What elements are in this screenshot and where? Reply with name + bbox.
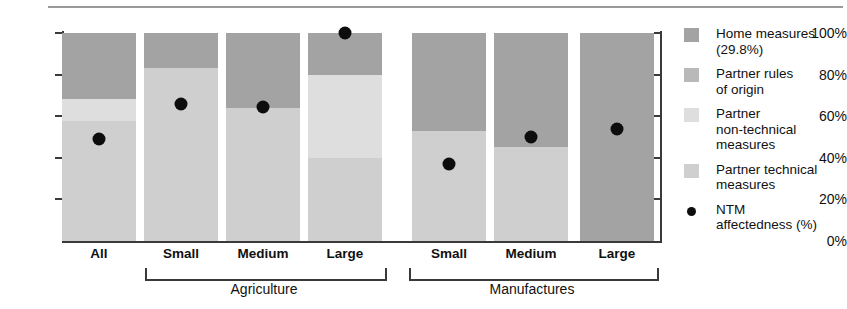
ntm-affectedness-dot [175, 97, 188, 110]
legend-item-4: NTM affectedness (%) [684, 202, 847, 233]
x-category-label-ag-small: Small [144, 246, 218, 261]
bar-segment [494, 147, 568, 241]
bar-segment [308, 75, 382, 158]
legend-item-0: Home measures (29.8%) [684, 26, 847, 57]
x-axis-line [62, 241, 662, 243]
ntm-affectedness-dot [611, 122, 624, 135]
ntm-affectedness-dot [443, 158, 456, 171]
legend-swatch-icon [684, 108, 699, 122]
bar-segment [226, 33, 300, 108]
legend-swatch-icon [684, 28, 699, 42]
bar-segment [62, 99, 136, 122]
bar-6 [580, 33, 654, 241]
plot-area [62, 33, 660, 241]
x-category-label-ag-medium: Medium [226, 246, 300, 261]
bar-segment [144, 33, 218, 68]
bar-segment [226, 108, 300, 241]
top-divider [48, 6, 843, 8]
group-bracket-agriculture [145, 268, 387, 281]
legend-item-2: Partner non-technical measures [684, 106, 847, 153]
y-tick-mark-60 [55, 115, 62, 117]
legend-label: Home measures (29.8%) [716, 26, 847, 57]
y-tick-mark-80 [55, 74, 62, 76]
bar-segment [412, 33, 486, 131]
legend-circle-marker-icon [687, 207, 696, 216]
x-category-label-ag-large: Large [308, 246, 382, 261]
legend-item-3: Partner technical measures [684, 162, 847, 193]
bar-segment [412, 131, 486, 241]
x-category-label-mf-medium: Medium [494, 246, 568, 261]
ntm-affectedness-dot [93, 133, 106, 146]
y-tick-mark-40 [55, 157, 62, 159]
legend-label: Partner non-technical measures [716, 106, 847, 153]
x-category-label-all: All [62, 246, 136, 261]
legend: Home measures (29.8%)Partner rules of or… [684, 26, 847, 242]
legend-swatch-icon [684, 68, 699, 82]
x-category-label-mf-small: Small [412, 246, 486, 261]
bar-4 [412, 33, 486, 241]
legend-item-1: Partner rules of origin [684, 66, 847, 97]
bar-segment [144, 68, 218, 241]
bar-segment [308, 158, 382, 241]
group-label-agriculture: Agriculture [145, 281, 383, 297]
bar-1 [144, 33, 218, 241]
ntm-affectedness-dot [525, 131, 538, 144]
legend-label: Partner rules of origin [716, 66, 847, 97]
bar-segment [580, 33, 654, 241]
legend-swatch-icon [684, 164, 699, 178]
group-bracket-manufactures [409, 268, 659, 281]
group-label-manufactures: Manufactures [409, 281, 655, 297]
x-category-label-mf-large: Large [580, 246, 654, 261]
bar-3 [308, 33, 382, 241]
bar-segment [62, 33, 136, 99]
ntm-affectedness-dot [339, 27, 352, 40]
bar-2 [226, 33, 300, 241]
y-tick-mark-100 [55, 32, 62, 34]
legend-label: Partner technical measures [716, 162, 847, 193]
y-tick-mark-20 [55, 198, 62, 200]
right-axis-line [660, 31, 662, 243]
legend-label: NTM affectedness (%) [716, 202, 847, 233]
ntm-affectedness-dot [257, 100, 270, 113]
chart-root: 100% 80% 60% 40% 20% 0% All Small Medium… [0, 0, 847, 309]
